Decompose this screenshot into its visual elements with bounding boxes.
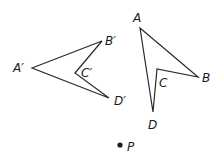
label-b: B <box>202 71 210 85</box>
label-c-prime: C′ <box>81 66 92 80</box>
label-d: D <box>148 118 157 132</box>
label-d-prime: D′ <box>114 94 126 108</box>
label-b-prime: B′ <box>105 34 116 48</box>
label-a-prime: A′ <box>12 61 24 75</box>
label-a: A <box>132 11 141 25</box>
point-p-dot <box>117 142 122 147</box>
label-p: P <box>127 140 135 154</box>
quadrilateral-original <box>140 28 198 112</box>
diagram-canvas: A′ B′ C′ D′ A B C D P <box>0 0 220 164</box>
quadrilateral-image <box>32 41 109 98</box>
label-c: C <box>159 76 168 90</box>
